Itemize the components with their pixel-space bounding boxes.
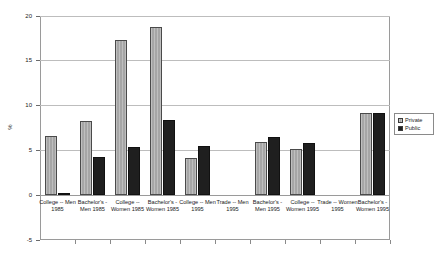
y-tick-label-10: 10 bbox=[2, 102, 32, 109]
bar-public-6 bbox=[268, 137, 280, 195]
bar-private-6 bbox=[255, 142, 267, 195]
legend-item-public: Public bbox=[398, 125, 431, 131]
y-axis-title: % bbox=[7, 124, 13, 129]
x-axis-label-9: Bachelor's - Women 1995 bbox=[352, 199, 393, 214]
bar-public-7 bbox=[303, 143, 315, 195]
bar-public-9 bbox=[373, 113, 385, 195]
bar-public-0 bbox=[58, 193, 70, 195]
bar-private-9 bbox=[360, 113, 372, 195]
x-tick-mark bbox=[110, 240, 111, 244]
legend-item-private: Private bbox=[398, 117, 431, 123]
bar-private-1 bbox=[80, 121, 92, 195]
bar-private-2 bbox=[115, 40, 127, 195]
x-tick-mark bbox=[180, 240, 181, 244]
y-tick-label-20: 20 bbox=[2, 13, 32, 20]
legend-label-private: Private bbox=[405, 117, 422, 123]
bar-private-7 bbox=[290, 149, 302, 196]
x-tick-mark bbox=[390, 240, 391, 244]
legend-label-public: Public bbox=[405, 125, 420, 131]
x-tick-mark bbox=[250, 240, 251, 244]
bar-public-3 bbox=[163, 120, 175, 195]
chart-legend: Private Public bbox=[394, 113, 434, 135]
bar-private-0 bbox=[45, 136, 57, 195]
x-tick-mark bbox=[145, 240, 146, 244]
bar-private-4 bbox=[185, 158, 197, 196]
bar-public-1 bbox=[93, 157, 105, 196]
legend-swatch-public-icon bbox=[398, 126, 403, 131]
bar-chart: 20151050-5 % College -- Men 1985Bachelor… bbox=[0, 0, 436, 266]
y-tick-label-5: 5 bbox=[2, 147, 32, 154]
bar-public-2 bbox=[128, 147, 140, 195]
x-tick-mark bbox=[285, 240, 286, 244]
x-tick-mark bbox=[75, 240, 76, 244]
y-tick-label-0: 0 bbox=[2, 192, 32, 199]
x-tick-mark bbox=[355, 240, 356, 244]
bar-private-3 bbox=[150, 27, 162, 195]
y-tick-label-15: 15 bbox=[2, 57, 32, 64]
bar-public-4 bbox=[198, 146, 210, 195]
legend-swatch-private-icon bbox=[398, 118, 403, 123]
x-tick-mark bbox=[215, 240, 216, 244]
y-tick-label--5: -5 bbox=[2, 237, 32, 244]
x-tick-mark bbox=[320, 240, 321, 244]
